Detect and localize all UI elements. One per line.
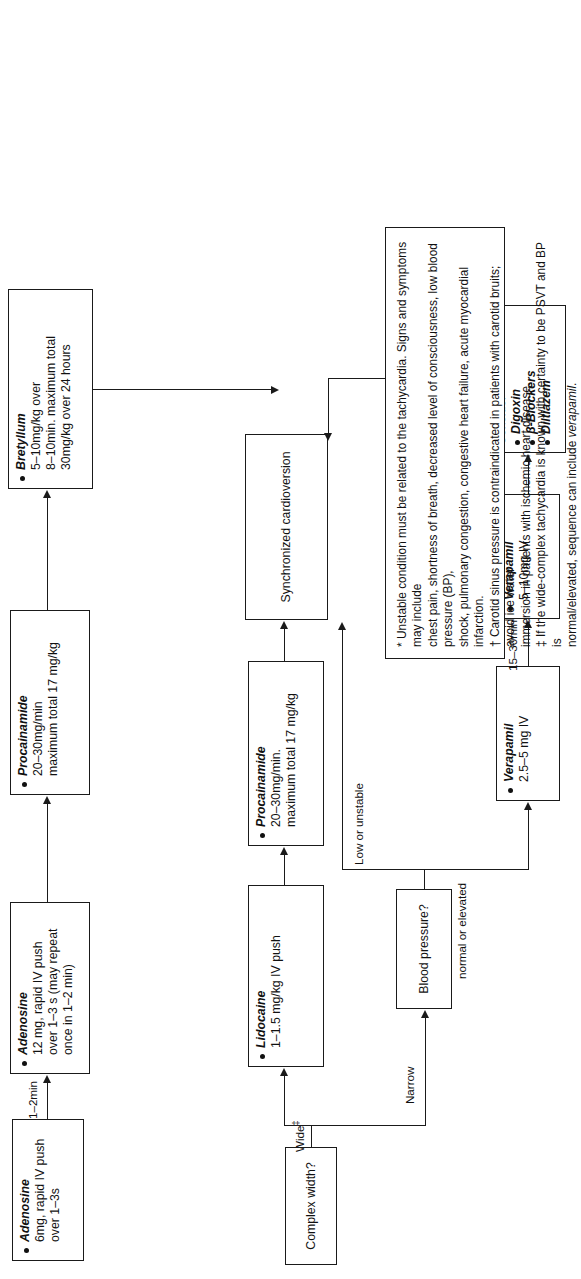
footnote-line-6: ‡ If the wide-complex tachycardia is kno…: [534, 239, 565, 647]
drug-name: Verapamil: [502, 724, 516, 782]
arrowhead-right: [43, 796, 51, 804]
arrowhead-right: [43, 1075, 51, 1083]
footnote-line-3: shock, pulmonary congestion, congestive …: [457, 239, 488, 647]
footnote-line-7: normal/elevated, sequence can include ve…: [565, 239, 580, 647]
connector-lidocaine-to-procainamide-mid: [284, 855, 285, 885]
drug-dose: 20–30mg/min. maximum total 17 mg/kg: [269, 693, 298, 827]
arrowhead-right: [280, 621, 288, 629]
drug-dose: 12 mg, rapid IV push over 1–3 s (may rep…: [31, 929, 75, 1055]
drug-dose: 5–10mg/kg over 8–10min. maximum total 30…: [29, 336, 73, 470]
footnote-line-5: immersion in patients with ischemic hear…: [519, 239, 534, 647]
footnote-line-2: chest pain, shortness of breath, decreas…: [426, 239, 457, 647]
bullet-icon: [22, 1061, 27, 1066]
connector-procainamide-mid-to-cardioversion: [284, 629, 285, 661]
node-adenosine-6mg: Adenosine 6mg, rapid IV push over 1–3s: [12, 1119, 84, 1261]
arrowhead-right: [338, 622, 346, 630]
node-adenosine-12mg: Adenosine 12 mg, rapid IV push over 1–3 …: [10, 902, 90, 1074]
arrowhead-right: [280, 1068, 288, 1076]
connector-bp-down-normal-elevated: [424, 869, 529, 870]
footnote-block: * Unstable condition must be related to …: [385, 227, 505, 659]
drug-name: Adenosine: [18, 1179, 32, 1242]
connector-wide-to-lidocaine: [284, 1076, 285, 1126]
drug-name: Bretyllum: [14, 413, 28, 470]
arrowhead-right: [43, 490, 51, 498]
bullet-icon: [20, 476, 25, 481]
bullet-icon: [508, 788, 513, 793]
edge-label-normal-or-elevated: normal or elevated: [455, 883, 468, 979]
connector-branch-down-narrow: [311, 1125, 426, 1126]
edge-label-wide: Wide‡: [293, 1121, 306, 1152]
edge-label-1-2min: 1–2min: [26, 1081, 39, 1119]
connector-low-unstable-to-cardioversion: [342, 630, 343, 870]
node-procainamide-top: Procainamide 20–30mg/min maximum total 1…: [10, 610, 90, 795]
arrowhead-right: [421, 1010, 429, 1018]
arrowhead-down: [271, 387, 279, 395]
connector-bloodpressure-stem: [424, 869, 425, 889]
bullet-icon: [24, 1248, 29, 1253]
node-synchronized-cardioversion: Synchronized cardioversion: [245, 434, 328, 620]
drug-name: Procainamide: [16, 695, 30, 776]
drug-name: Lidocaine: [254, 991, 268, 1048]
drug-dose: 1–1.5 mg/kg IV push: [269, 935, 283, 1048]
connector-consider-to-cardioversion-horizontal: [328, 378, 329, 433]
bullet-icon: [260, 1054, 265, 1059]
connector-procainamide-to-bretylium: [47, 498, 48, 610]
node-label: Complex width?: [300, 1156, 323, 1255]
arrowhead-right: [280, 847, 288, 855]
connector-adenosine6-to-adenosine12: [47, 1083, 48, 1119]
footnote-line-1: * Unstable condition must be related to …: [395, 239, 426, 647]
footnote-marker-wide: ‡: [291, 1121, 301, 1126]
node-bretylium: Bretyllum 5–10mg/kg over 8–10min. maximu…: [8, 289, 93, 489]
connector-adenosine12-to-procainamide-top: [47, 804, 48, 902]
footnote-line-4: † Carotid sinus pressure is contraindica…: [488, 239, 519, 647]
node-blood-pressure: Blood pressure?: [396, 889, 452, 1009]
node-complex-width: Complex width?: [285, 1147, 337, 1265]
arrowhead-left: [324, 433, 332, 441]
connector-narrow-to-bloodpressure: [425, 1018, 426, 1126]
node-lidocaine: Lidocaine 1–1.5 mg/kg IV push: [248, 885, 324, 1067]
edge-label-narrow: Narrow: [403, 1067, 416, 1104]
node-label: Blood pressure?: [413, 898, 436, 1000]
connector-normal-elevated-to-verapamil1: [528, 810, 529, 870]
drug-name: Procainamide: [254, 746, 268, 827]
arrowhead-right: [524, 802, 532, 810]
node-procainamide-mid: Procainamide 20–30mg/min. maximum total …: [248, 661, 324, 846]
drug-dose: 6mg, rapid IV push over 1–3s: [33, 1139, 62, 1242]
drug-name: Adenosine: [16, 992, 30, 1055]
connector-complexwidth-stem: [311, 1125, 312, 1147]
bullet-icon: [260, 833, 265, 838]
drug-dose: 20–30mg/min maximum total 17 mg/kg: [31, 642, 60, 776]
node-label: Synchronized cardioversion: [275, 445, 298, 608]
connector-bp-up-low-unstable: [342, 869, 424, 870]
bullet-icon: [22, 782, 27, 787]
edge-label-low-or-unstable: Low or unstable: [352, 783, 365, 865]
connector-bretylium-to-cardioversion: [93, 389, 273, 390]
drug-dose: 2.5–5 mg IV: [517, 716, 531, 782]
node-verapamil-2-5-to-5mg: Verapamil 2.5–5 mg IV: [496, 666, 560, 801]
